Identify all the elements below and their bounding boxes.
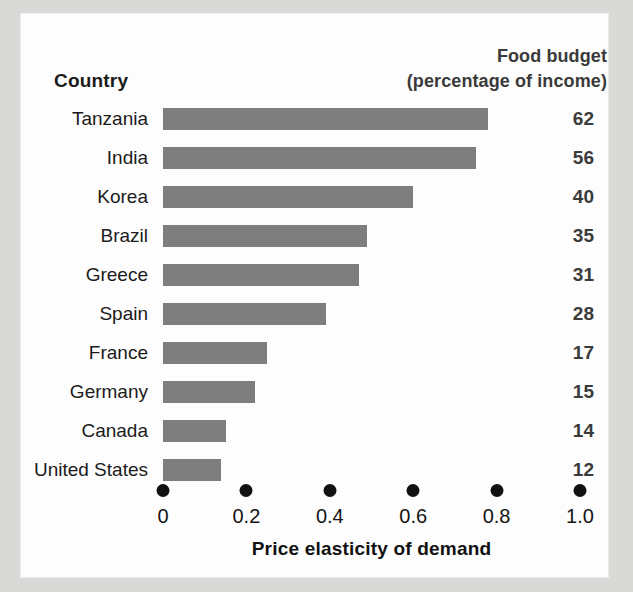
chart-row: Greece31 [0, 261, 633, 300]
category-label: Spain [0, 300, 148, 327]
bar [163, 342, 267, 364]
x-axis-tick-dot [490, 484, 503, 497]
x-axis-tick-dot [240, 484, 253, 497]
x-axis-tick-label: 0.8 [462, 505, 532, 528]
x-axis-tick-dot [407, 484, 420, 497]
category-label: Greece [0, 261, 148, 288]
category-label: Tanzania [0, 105, 148, 132]
bar [163, 303, 326, 325]
chart-row: United States12 [0, 456, 633, 495]
x-axis-tick-label: 0.4 [295, 505, 365, 528]
chart-row: India56 [0, 144, 633, 183]
bar-chart-plot-area: Tanzania62India56Korea40Brazil35Greece31… [0, 0, 633, 592]
x-axis-tick-label: 1.0 [545, 505, 615, 528]
bar [163, 459, 221, 481]
bar [163, 420, 226, 442]
food-budget-value: 28 [540, 300, 594, 327]
x-axis-tick-dot [323, 484, 336, 497]
food-budget-value: 15 [540, 378, 594, 405]
food-budget-value: 17 [540, 339, 594, 366]
bar [163, 147, 476, 169]
category-label: Germany [0, 378, 148, 405]
food-budget-value: 56 [540, 144, 594, 171]
x-axis-tick-label: 0 [128, 505, 198, 528]
chart-row: Korea40 [0, 183, 633, 222]
food-budget-value: 35 [540, 222, 594, 249]
food-budget-value: 31 [540, 261, 594, 288]
chart-row: Tanzania62 [0, 105, 633, 144]
bar [163, 225, 367, 247]
bar [163, 108, 488, 130]
food-budget-value: 40 [540, 183, 594, 210]
food-budget-value: 62 [540, 105, 594, 132]
x-axis-tick-label: 0.2 [211, 505, 281, 528]
food-budget-value: 14 [540, 417, 594, 444]
food-budget-value: 12 [540, 456, 594, 483]
x-axis-tick-dot [574, 484, 587, 497]
category-label: France [0, 339, 148, 366]
x-axis-title: Price elasticity of demand [163, 538, 580, 560]
page-background: Country Food budget (percentage of incom… [0, 0, 633, 592]
chart-row: Canada14 [0, 417, 633, 456]
x-axis-tick-dot [157, 484, 170, 497]
chart-row: Spain28 [0, 300, 633, 339]
chart-row: France17 [0, 339, 633, 378]
chart-row: Germany15 [0, 378, 633, 417]
category-label: India [0, 144, 148, 171]
category-label: Korea [0, 183, 148, 210]
bar [163, 381, 255, 403]
x-axis-tick-label: 0.6 [378, 505, 448, 528]
category-label: United States [0, 456, 148, 483]
bar [163, 186, 413, 208]
bar [163, 264, 359, 286]
category-label: Brazil [0, 222, 148, 249]
chart-row: Brazil35 [0, 222, 633, 261]
category-label: Canada [0, 417, 148, 444]
